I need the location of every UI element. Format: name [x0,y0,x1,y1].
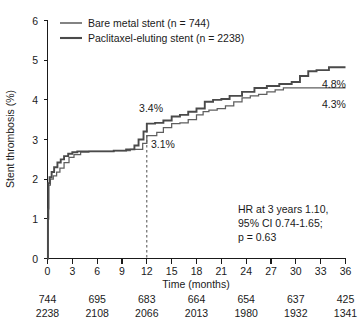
at-risk-pes-24: 1980 [235,307,259,319]
x-tick-label-30: 30 [290,265,302,277]
y-tick-label-3: 3 [32,134,38,146]
stat-line-ci: 95% CI 0.74-1.65; [238,217,323,229]
legend-label-bare-metal: Bare metal stent (n = 744) [88,17,210,29]
x-tick-label-9: 9 [119,265,125,277]
curve-bare-metal-stent [48,88,346,259]
at-risk-pes-6: 2108 [86,307,110,319]
y-tick-label-5: 5 [32,54,38,66]
at-risk-bms-36: 425 [337,293,355,305]
stat-line-hr: HR at 3 years 1.10, [238,203,328,215]
x-tick-label-12: 12 [141,265,153,277]
chart-legend: Bare metal stent (n = 744) Paclitaxel-el… [60,17,244,44]
x-axis-title: Time (months) [162,278,229,290]
y-tick-label-4: 4 [32,94,38,106]
x-ticks: 0 3 6 9 12 15 18 21 24 27 30 33 [45,259,352,278]
x-tick-label-3: 3 [69,265,75,277]
y-tick-label-2: 2 [32,173,38,185]
y-tick-label-0: 0 [32,253,38,265]
at-risk-bms-24: 654 [237,293,255,305]
x-tick-label-33: 33 [315,265,327,277]
x-tick-label-18: 18 [191,265,203,277]
label-pes-at-12-months: 3.4% [139,102,163,114]
x-tick-label-0: 0 [45,265,51,277]
at-risk-pes-30: 1932 [284,307,308,319]
label-pes-at-36-months: 4.8% [322,78,346,90]
x-tick-label-15: 15 [166,265,178,277]
label-bms-at-36-months: 4.3% [322,98,346,110]
y-tick-label-1: 1 [32,213,38,225]
y-tick-label-6: 6 [32,15,38,27]
label-bms-at-12-months: 3.1% [151,138,175,150]
stent-thrombosis-chart: 6 5 4 3 2 1 0 Stent thrombosis (%) 0 3 6 [0,0,360,325]
x-tick-label-27: 27 [265,265,277,277]
stat-line-p: p = 0.63 [238,231,276,243]
at-risk-pes-18: 2013 [185,307,209,319]
x-tick-label-21: 21 [215,265,227,277]
at-risk-bms-0: 744 [39,293,57,305]
statistics-annotation: HR at 3 years 1.10, 95% CI 0.74-1.65; p … [238,203,328,243]
at-risk-bms-6: 695 [88,293,106,305]
at-risk-bms-30: 637 [287,293,305,305]
at-risk-table: 744 695 683 664 654 637 425 2238 2108 20… [36,293,358,319]
legend-label-paclitaxel: Paclitaxel-eluting stent (n = 2238) [88,32,244,44]
x-tick-label-24: 24 [240,265,252,277]
at-risk-bms-12: 683 [138,293,156,305]
chart-svg: 6 5 4 3 2 1 0 Stent thrombosis (%) 0 3 6 [0,0,360,325]
x-tick-label-36: 36 [340,265,352,277]
x-tick-label-6: 6 [94,265,100,277]
y-axis-title: Stent thrombosis (%) [4,90,16,188]
curve-paclitaxel-eluting-stent [48,67,346,258]
y-ticks: 6 5 4 3 2 1 0 [32,15,47,265]
at-risk-pes-0: 2238 [36,307,60,319]
at-risk-pes-12: 2066 [135,307,159,319]
at-risk-bms-18: 664 [188,293,206,305]
at-risk-pes-36: 1341 [334,307,358,319]
